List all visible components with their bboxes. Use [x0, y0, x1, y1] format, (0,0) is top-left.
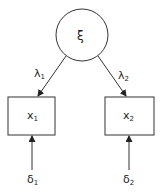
indicator-label-x1: x1: [27, 110, 38, 123]
latent-label-xi: ξ: [77, 30, 84, 42]
loading-label-1: λ1: [34, 68, 45, 81]
loading-label-2: λ2: [118, 70, 129, 83]
error-label-delta1: δ1: [27, 174, 38, 187]
error-label-delta2: δ2: [123, 174, 134, 187]
indicator-label-x2: x2: [123, 110, 134, 123]
